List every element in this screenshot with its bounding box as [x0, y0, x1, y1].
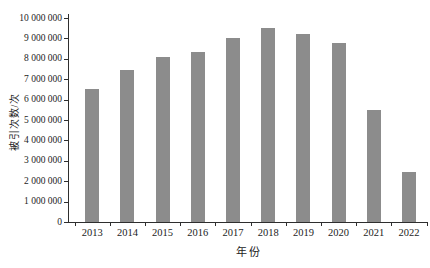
y-axis-line	[68, 14, 69, 222]
bar-2018	[261, 28, 275, 222]
bar-2020	[332, 43, 346, 222]
x-tick-label: 2021	[363, 226, 384, 239]
bar-2022	[402, 172, 416, 222]
bar-2019	[296, 34, 310, 222]
x-tick-label: 2016	[187, 226, 208, 239]
y-tick	[64, 140, 68, 141]
x-tick-label: 2013	[82, 226, 103, 239]
y-tick	[64, 18, 68, 19]
bar-2016	[191, 52, 205, 222]
y-tick-label: 2 000 000	[0, 176, 62, 187]
y-tick	[64, 202, 68, 203]
y-tick	[64, 222, 68, 223]
x-boundary-tick	[356, 222, 357, 226]
x-boundary-tick	[75, 222, 76, 226]
bar-2013	[85, 89, 99, 222]
x-tick-label: 2017	[223, 226, 244, 239]
y-tick	[64, 38, 68, 39]
y-tick	[64, 181, 68, 182]
y-tick-label: 10 000 000	[0, 13, 62, 24]
citation-bar-chart: 被引次数/次 年份 01 000 0002 000 0003 000 0004 …	[0, 0, 430, 268]
y-tick	[64, 59, 68, 60]
y-tick-label: 7 000 000	[0, 74, 62, 85]
y-tick-label: 0	[0, 217, 62, 228]
x-tick-label: 2019	[293, 226, 314, 239]
x-boundary-tick	[286, 222, 287, 226]
x-boundary-tick	[321, 222, 322, 226]
x-boundary-tick	[145, 222, 146, 226]
x-boundary-tick	[180, 222, 181, 226]
bar-2014	[120, 70, 134, 222]
y-tick	[64, 120, 68, 121]
x-boundary-tick	[110, 222, 111, 226]
y-tick-label: 1 000 000	[0, 196, 62, 207]
x-tick-label: 2014	[117, 226, 138, 239]
x-tick-label: 2020	[328, 226, 349, 239]
x-axis-line	[68, 222, 428, 223]
y-tick	[64, 161, 68, 162]
bar-2017	[226, 38, 240, 222]
x-tick-label: 2018	[258, 226, 279, 239]
y-tick-label: 3 000 000	[0, 155, 62, 166]
y-tick	[64, 100, 68, 101]
bar-2015	[156, 57, 170, 222]
x-tick-label: 2015	[152, 226, 173, 239]
x-boundary-tick	[427, 222, 428, 226]
x-axis-title: 年份	[236, 243, 262, 259]
x-boundary-tick	[251, 222, 252, 226]
y-tick-label: 4 000 000	[0, 135, 62, 146]
y-tick-label: 8 000 000	[0, 53, 62, 64]
bar-2021	[367, 110, 381, 222]
x-boundary-tick	[391, 222, 392, 226]
x-boundary-tick	[215, 222, 216, 226]
y-tick	[64, 79, 68, 80]
y-tick-label: 5 000 000	[0, 115, 62, 126]
y-tick-label: 6 000 000	[0, 94, 62, 105]
y-tick-label: 9 000 000	[0, 33, 62, 44]
x-tick-label: 2022	[399, 226, 420, 239]
